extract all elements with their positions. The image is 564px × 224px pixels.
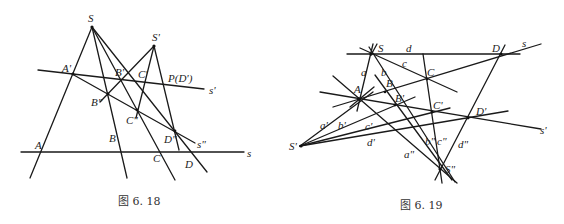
label-A: A: [353, 83, 361, 95]
label-D: D: [184, 158, 193, 170]
point-B-prime: [394, 104, 397, 107]
label-A-prime: A': [61, 62, 72, 74]
point-A: [357, 97, 361, 101]
label-b-dbl: b": [425, 135, 436, 147]
caption-6-19: 图 6. 19: [400, 199, 443, 212]
ray-SC: [92, 27, 175, 180]
label-s-prime: s': [540, 124, 547, 136]
label-a-dbl: a": [404, 148, 415, 160]
label-s-dbl: s": [197, 138, 206, 150]
label-C-prime: C': [433, 99, 443, 111]
label-S-dbl: S": [445, 163, 456, 175]
point-A-prime: [72, 73, 75, 76]
point-C-prime: [431, 111, 434, 114]
label-s: s: [247, 147, 251, 159]
label-S-prime: S': [289, 140, 298, 152]
figure-canvas: S S' A' B' C' P(D') s' B" C" D" s" A B C…: [0, 0, 564, 224]
label-S: S: [378, 42, 384, 54]
label-d: d: [406, 42, 412, 54]
label-c: c: [402, 57, 407, 69]
label-B-prime: B': [395, 92, 405, 104]
figure-6-18: S S' A' B' C' P(D') s' B" C" D" s" A B C…: [21, 12, 251, 208]
label-d-prime: d': [367, 136, 376, 148]
label-b-prime: b': [338, 119, 347, 131]
label-B-dbl: B": [91, 96, 103, 108]
point-S: [90, 25, 93, 28]
label-D: D: [491, 42, 500, 54]
label-S-prime: S': [152, 31, 161, 43]
point-S: [369, 52, 372, 55]
label-d-dbl: d": [458, 138, 469, 150]
label-B: B: [386, 77, 393, 89]
point-B-dbl: [107, 93, 110, 96]
point-D-prime: [467, 117, 470, 120]
point-C: [426, 78, 429, 81]
label-a-prime: a': [320, 119, 329, 131]
point-S-prime: [152, 44, 155, 47]
label-s: s: [522, 37, 526, 49]
label-D-prime: D': [475, 105, 487, 117]
label-a: a: [361, 66, 367, 78]
label-s-prime: s': [209, 84, 216, 96]
point-D-dbl: [174, 130, 177, 133]
label-P-D-prime: P(D'): [167, 72, 193, 85]
label-A: A: [34, 139, 42, 151]
label-C-prime: C': [138, 68, 148, 80]
ray-SA: [30, 27, 92, 178]
label-D-dbl: D": [163, 133, 177, 145]
caption-6-18: 图 6. 18: [118, 195, 161, 208]
point-B: [384, 91, 387, 94]
label-B-prime: B': [115, 66, 125, 78]
label-B: B: [109, 132, 116, 144]
label-C: C: [153, 152, 161, 164]
point-C-dbl: [136, 109, 139, 112]
point-S-prime: [299, 144, 302, 147]
label-c-dbl: c": [437, 135, 447, 147]
label-c-prime: c': [365, 120, 373, 132]
figure-6-19: S d D s a b c C A B B' C' D' s' a' b' c'…: [289, 37, 547, 212]
point-S-dbl: [438, 167, 441, 170]
label-S: S: [88, 12, 94, 24]
label-C: C: [427, 66, 435, 78]
label-C-dbl: C": [126, 114, 138, 126]
